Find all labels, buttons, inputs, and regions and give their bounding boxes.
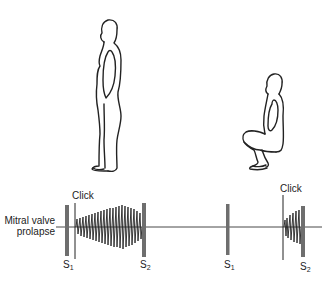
diagram-canvas xyxy=(0,0,335,287)
s1-label-2-sub: 1 xyxy=(231,264,235,271)
click-label-1: Click xyxy=(72,190,94,201)
s1-label-1: S1 xyxy=(63,259,74,273)
s2-label-1: S2 xyxy=(140,259,151,273)
s2-label-2-sub: 2 xyxy=(307,266,311,273)
s1-heart-sound-bar-2 xyxy=(226,204,230,255)
s1-label-1-sub: 1 xyxy=(70,264,74,271)
s2-label-2: S2 xyxy=(300,261,311,275)
s2-heart-sound-bar-2 xyxy=(301,206,305,257)
s1-heart-sound-bar-1 xyxy=(65,205,69,256)
standing-figure xyxy=(92,20,121,172)
s2-label-1-text: S xyxy=(140,259,147,270)
s1-label-1-text: S xyxy=(63,259,70,270)
s1-label-2-text: S xyxy=(224,259,231,270)
squatting-figure xyxy=(243,74,283,170)
s2-heart-sound-bar-1 xyxy=(142,203,146,257)
row-label-line-2: prolapse xyxy=(4,226,55,237)
s1-label-2: S1 xyxy=(224,259,235,273)
row-label: Mitral valve prolapse xyxy=(4,215,55,237)
s2-label-2-text: S xyxy=(300,261,307,272)
click-label-2: Click xyxy=(280,183,302,194)
row-label-line-1: Mitral valve xyxy=(4,215,55,226)
s2-label-1-sub: 2 xyxy=(147,264,151,271)
